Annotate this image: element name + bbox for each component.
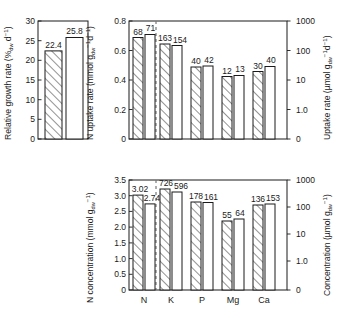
svg-text:0.6: 0.6 xyxy=(114,46,126,56)
bar-uptake-N-hatched xyxy=(133,38,143,140)
bar-value-conc-P-open: 161 xyxy=(204,192,218,202)
bar-value-uptake-N-hatched: 68 xyxy=(133,27,143,37)
svg-text:25: 25 xyxy=(26,36,36,46)
bar-conc-Ca-hatched xyxy=(253,205,263,290)
svg-text:2.5: 2.5 xyxy=(114,206,126,216)
svg-text:0.5: 0.5 xyxy=(114,269,126,279)
bar-uptake-P-hatched xyxy=(191,67,201,139)
svg-text:100: 100 xyxy=(296,46,310,56)
x-label-Mg: Mg xyxy=(227,295,240,305)
x-label-Ca: Ca xyxy=(258,295,270,305)
bar-uptake-K-open xyxy=(172,46,182,140)
svg-text:15: 15 xyxy=(26,75,36,85)
svg-text:2.0: 2.0 xyxy=(114,222,126,232)
svg-text:0: 0 xyxy=(296,134,301,144)
svg-text:0.2: 0.2 xyxy=(114,105,126,115)
bar-uptake-Mg-open xyxy=(234,76,244,140)
svg-text:5: 5 xyxy=(30,114,35,124)
svg-text:1.5: 1.5 xyxy=(114,238,126,248)
bar-value-conc-Mg-hatched: 55 xyxy=(222,210,232,220)
svg-text:10: 10 xyxy=(296,75,306,85)
bar-value-uptake-Mg-open: 13 xyxy=(235,64,245,74)
bar-value-conc-N-open: 2.74 xyxy=(144,193,161,203)
bar-conc-Mg-open xyxy=(234,219,244,290)
top-right-y-axis-title-right: Uptake rate (µmol gdw−1d−1) xyxy=(321,35,333,140)
bar-value-uptake-Ca-hatched: 30 xyxy=(253,61,263,71)
bar-conc-Mg-hatched xyxy=(222,221,232,290)
top-left-y-axis-title: Relative growth rate (%dw d−1) xyxy=(2,26,14,140)
bar-value-growth-open: 25.8 xyxy=(66,26,83,36)
bar-value-conc-K-open: 596 xyxy=(174,181,188,191)
bar-conc-K-open xyxy=(172,192,182,290)
bar-uptake-K-hatched xyxy=(160,44,170,139)
bar-conc-N-open xyxy=(145,204,155,290)
svg-text:3.5: 3.5 xyxy=(114,175,126,185)
bar-value-conc-Ca-hatched: 136 xyxy=(251,194,265,204)
bar-conc-Ca-open xyxy=(265,204,275,290)
svg-text:0: 0 xyxy=(121,134,126,144)
svg-text:20: 20 xyxy=(26,55,36,65)
svg-text:1000: 1000 xyxy=(296,175,315,185)
svg-text:0.8: 0.8 xyxy=(114,16,126,26)
bar-value-conc-P-hatched: 178 xyxy=(189,191,203,201)
bar-value-conc-Mg-open: 64 xyxy=(235,208,245,218)
svg-text:0: 0 xyxy=(30,134,35,144)
bar-value-uptake-K-open: 154 xyxy=(173,35,187,45)
svg-text:30: 30 xyxy=(26,16,36,26)
bar-value-conc-Ca-open: 153 xyxy=(266,193,280,203)
bar-value-uptake-P-hatched: 40 xyxy=(191,56,201,66)
bar-conc-P-open xyxy=(203,203,213,291)
svg-text:10: 10 xyxy=(26,95,36,105)
figure-svg: Relative growth rate (%dw d−1) 30 25 20 … xyxy=(0,0,343,326)
bar-conc-K-hatched xyxy=(160,189,170,290)
bar-conc-N-hatched xyxy=(133,195,143,290)
bar-uptake-Mg-hatched xyxy=(222,77,232,140)
svg-text:3.0: 3.0 xyxy=(114,191,126,201)
bar-uptake-P-open xyxy=(203,66,213,139)
svg-text:1000: 1000 xyxy=(296,16,315,26)
figure-container: Relative growth rate (%dw d−1) 30 25 20 … xyxy=(0,0,343,326)
bar-value-uptake-Mg-hatched: 12 xyxy=(222,66,232,76)
bar-uptake-N-open xyxy=(145,35,155,140)
svg-text:1.0: 1.0 xyxy=(296,105,308,115)
svg-text:0.4: 0.4 xyxy=(114,75,126,85)
svg-text:0: 0 xyxy=(121,285,126,295)
x-label-K: K xyxy=(168,295,174,305)
bar-value-growth-hatched: 22.4 xyxy=(45,40,62,50)
bar-value-uptake-N-open: 71 xyxy=(146,23,156,33)
bar-uptake-Ca-hatched xyxy=(253,72,263,140)
x-label-P: P xyxy=(199,295,205,305)
svg-text:1.0: 1.0 xyxy=(114,254,126,264)
bar-value-conc-K-hatched: 726 xyxy=(159,178,173,188)
svg-text:1.0: 1.0 xyxy=(296,256,308,266)
bar-conc-P-hatched xyxy=(191,202,201,290)
x-label-N: N xyxy=(141,295,148,305)
svg-text:10: 10 xyxy=(296,229,306,239)
bar-growth-hatched xyxy=(45,51,62,139)
svg-text:0: 0 xyxy=(296,285,301,295)
bar-value-uptake-K-hatched: 163 xyxy=(158,33,172,43)
bar-value-uptake-Ca-open: 40 xyxy=(266,55,276,65)
svg-text:100: 100 xyxy=(296,202,310,212)
bar-uptake-Ca-open xyxy=(265,67,275,140)
bar-value-uptake-P-open: 42 xyxy=(204,55,214,65)
bar-growth-open xyxy=(66,38,83,140)
